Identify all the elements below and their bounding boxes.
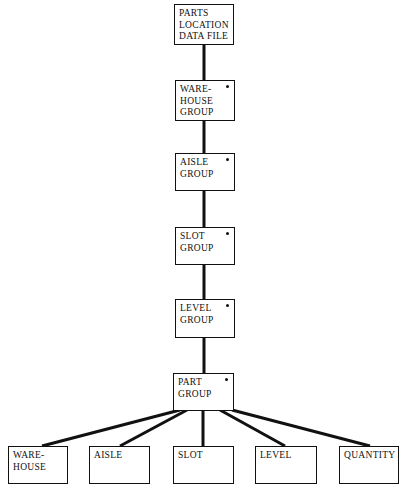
node-label-line: PART xyxy=(178,377,229,389)
node-label-line: GROUP xyxy=(180,315,230,327)
group-marker-dot-icon xyxy=(226,304,229,307)
node-label-line: GROUP xyxy=(180,107,230,119)
group-marker-dot-icon xyxy=(225,378,228,381)
edge-part-warehouse xyxy=(42,410,180,446)
node-warehouse-group: WARE- HOUSE GROUP xyxy=(175,80,235,121)
node-label-line: SLOT xyxy=(180,231,230,243)
leaf-quantity: QUANTITY xyxy=(339,446,399,484)
leaf-aisle: AISLE xyxy=(89,446,150,484)
group-marker-dot-icon xyxy=(226,85,229,88)
node-slot-group: SLOT GROUP xyxy=(175,227,235,265)
node-label-line: HOUSE xyxy=(180,96,230,108)
node-label-line: QUANTITY xyxy=(344,450,394,462)
group-marker-dot-icon xyxy=(226,158,229,161)
node-label-line: GROUP xyxy=(178,389,229,401)
group-marker-dot-icon xyxy=(226,232,229,235)
node-label-line: LEVEL xyxy=(180,303,230,315)
node-label-line: WARE- xyxy=(13,450,63,462)
node-label-line: LEVEL xyxy=(260,450,312,462)
node-label-line: PARTS xyxy=(179,8,229,20)
leaf-warehouse: WARE- HOUSE xyxy=(8,446,68,484)
node-aisle-group: AISLE GROUP xyxy=(175,153,235,191)
node-label-line: GROUP xyxy=(180,243,230,255)
node-label-line: SLOT xyxy=(178,450,229,462)
leaf-level: LEVEL xyxy=(255,446,317,484)
node-parts-location-data-file: PARTS LOCATION DATA FILE xyxy=(174,4,234,45)
leaf-slot: SLOT xyxy=(173,446,234,484)
node-label-line: HOUSE xyxy=(13,462,63,474)
node-label-line: LOCATION xyxy=(179,20,229,32)
node-label-line: AISLE xyxy=(94,450,145,462)
node-level-group: LEVEL GROUP xyxy=(175,299,235,338)
node-label-line: DATA FILE xyxy=(179,31,229,43)
node-part-group: PART GROUP xyxy=(173,373,234,411)
node-label-line: WARE- xyxy=(180,84,230,96)
node-label-line: GROUP xyxy=(180,169,230,181)
node-label-line: AISLE xyxy=(180,157,230,169)
